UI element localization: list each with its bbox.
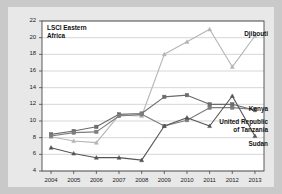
x-tick-label: 2009 <box>152 177 176 183</box>
x-tick-label: 2013 <box>243 177 267 183</box>
series-marker-2 <box>95 130 98 133</box>
chart-figure: 4681012141618202220042005200620072008200… <box>8 7 274 187</box>
y-tick-label: 6 <box>20 150 36 156</box>
y-tick-label: 8 <box>20 134 36 140</box>
y-tick-label: 18 <box>20 50 36 56</box>
series-label-sudan: Sudan <box>248 140 268 148</box>
series-label-kenya: Kenya <box>249 105 268 113</box>
series-label-djibouti: Djibouti <box>244 30 268 38</box>
x-tick-label: 2004 <box>39 177 63 183</box>
series-marker-1 <box>163 95 166 98</box>
series-marker-2 <box>117 114 120 117</box>
x-tick-label: 2007 <box>107 177 131 183</box>
x-tick-label: 2006 <box>84 177 108 183</box>
x-tick-label: 2012 <box>220 177 244 183</box>
y-tick-label: 10 <box>20 117 36 123</box>
y-tick-label: 22 <box>20 17 36 23</box>
x-tick-label: 2010 <box>175 177 199 183</box>
series-marker-1 <box>208 103 211 106</box>
x-tick-label: 2011 <box>198 177 222 183</box>
series-marker-1 <box>95 125 98 128</box>
y-tick-label: 12 <box>20 100 36 106</box>
series-marker-2 <box>231 106 234 109</box>
y-tick-label: 20 <box>20 34 36 40</box>
series-marker-1 <box>185 93 188 96</box>
plot-background <box>42 21 264 171</box>
series-marker-2 <box>140 113 143 116</box>
x-tick-label: 2008 <box>130 177 154 183</box>
y-tick-label: 16 <box>20 67 36 73</box>
series-marker-2 <box>49 134 52 137</box>
y-tick-label: 4 <box>20 167 36 173</box>
series-marker-2 <box>72 131 75 134</box>
series-marker-1 <box>231 103 234 106</box>
series-marker-2 <box>208 106 211 109</box>
chart-title: LSCI Eastern Africa <box>47 24 87 40</box>
series-label-united-republic-of-tanzania: United Republic of Tanzania <box>219 118 268 133</box>
y-tick-label: 14 <box>20 84 36 90</box>
x-tick-label: 2005 <box>62 177 86 183</box>
